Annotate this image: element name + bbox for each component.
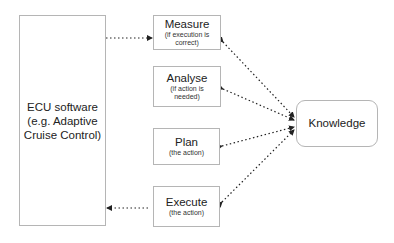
plan-title: Plan xyxy=(175,136,198,149)
analyse-title: Analyse xyxy=(167,72,208,85)
analyse-sub-2: needed) xyxy=(174,93,200,102)
knowledge-label: Knowledge xyxy=(309,117,366,130)
knowledge-box: Knowledge xyxy=(296,100,378,147)
ecu-line-3: Cruise Control) xyxy=(24,128,101,142)
measure-sub-1: (if execution is xyxy=(165,31,210,40)
analyse-box: Analyse (if action is needed) xyxy=(153,66,221,107)
ecu-line-1: ECU software xyxy=(27,100,98,114)
arrow-knowledge-execute xyxy=(222,130,294,202)
arrow-knowledge-analyse xyxy=(223,89,294,120)
measure-box: Measure (if execution is correct) xyxy=(153,15,221,50)
plan-sub-1: (the action) xyxy=(169,149,204,158)
ecu-software-box: ECU software (e.g. Adaptive Cruise Contr… xyxy=(19,15,106,226)
arrow-knowledge-plan xyxy=(222,127,294,146)
execute-box: Execute (the action) xyxy=(153,186,220,227)
measure-title: Measure xyxy=(165,18,210,31)
execute-sub-1: (the action) xyxy=(169,209,204,218)
ecu-line-2: (e.g. Adaptive xyxy=(27,114,97,128)
analyse-sub-1: (if action is xyxy=(170,85,203,94)
measure-sub-2: correct) xyxy=(175,39,199,48)
plan-box: Plan (the action) xyxy=(153,128,220,165)
arrow-knowledge-measure xyxy=(223,42,294,117)
execute-title: Execute xyxy=(166,196,208,209)
